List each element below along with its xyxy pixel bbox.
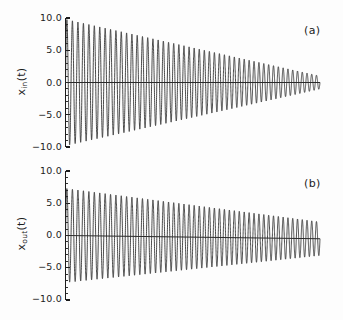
panel-a-plot	[0, 0, 343, 160]
panel-a: 10.0 5.0 0.0 −5.0 −10.0 xin(t) (a)	[0, 0, 343, 160]
panel-b-plot	[0, 160, 343, 320]
figure-container: 10.0 5.0 0.0 −5.0 −10.0 xin(t) (a) 10.0 …	[0, 0, 343, 320]
panel-b: 10.0 5.0 0.0 −5.0 −10.0 xout(t) (b)	[0, 160, 343, 320]
